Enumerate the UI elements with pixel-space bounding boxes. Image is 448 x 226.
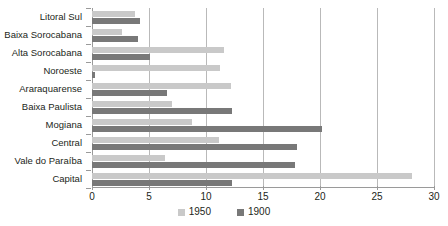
bar-row [92, 134, 434, 152]
bar-1950 [92, 65, 220, 71]
category-label: Alta Sorocabana [0, 44, 86, 62]
plot-area [92, 8, 434, 188]
bar-row [92, 116, 434, 134]
bar-1900 [92, 126, 322, 132]
legend-item-1950[interactable]: 1950 [178, 206, 211, 218]
category-label: Araraquarense [0, 80, 86, 98]
bar-1950 [92, 137, 219, 143]
x-tick-mark [263, 186, 264, 190]
category-axis: Litoral SulBaixa SorocabanaAlta Sorocaba… [0, 8, 86, 188]
category-tick [86, 8, 91, 9]
x-tick-mark [149, 186, 150, 190]
x-tick-mark [320, 186, 321, 190]
x-tick-label: 10 [200, 190, 211, 204]
bar-1950 [92, 173, 412, 179]
bar-1900 [92, 144, 297, 150]
category-label: Litoral Sul [0, 8, 86, 26]
chart-legend: 19501900 [0, 206, 448, 218]
bar-row [92, 62, 434, 80]
bar-chart: Litoral SulBaixa SorocabanaAlta Sorocaba… [0, 0, 448, 226]
x-tick-label: 5 [146, 190, 152, 204]
category-tick [86, 62, 91, 63]
x-tick-label: 0 [89, 190, 95, 204]
legend-label: 1900 [248, 206, 270, 218]
category-label: Vale do Paraíba [0, 152, 86, 170]
category-label: Noroeste [0, 62, 86, 80]
bar-1900 [92, 108, 232, 114]
bar-row [92, 8, 434, 26]
x-tick-label: 30 [428, 190, 439, 204]
x-tick-mark [92, 186, 93, 190]
bar-1900 [92, 90, 167, 96]
gridline-30 [434, 8, 435, 188]
category-tick [86, 134, 91, 135]
bar-row [92, 44, 434, 62]
category-tick [86, 80, 91, 81]
bar-1950 [92, 83, 231, 89]
bar-1950 [92, 155, 165, 161]
bar-row [92, 80, 434, 98]
category-tick [86, 170, 91, 171]
bar-row [92, 152, 434, 170]
bar-1950 [92, 29, 122, 35]
category-tick [86, 44, 91, 45]
bar-1950 [92, 119, 192, 125]
category-label: Baixa Paulista [0, 98, 86, 116]
category-tick [86, 152, 91, 153]
bar-1950 [92, 11, 135, 17]
x-tick-mark [434, 186, 435, 190]
bar-1900 [92, 72, 95, 78]
legend-item-1900[interactable]: 1900 [237, 206, 270, 218]
bar-1900 [92, 18, 140, 24]
bar-row [92, 26, 434, 44]
bar-1950 [92, 101, 172, 107]
x-tick-mark [206, 186, 207, 190]
category-tick [86, 26, 91, 27]
x-tick-label: 15 [257, 190, 268, 204]
legend-swatch-1900 [237, 209, 244, 216]
bar-1900 [92, 180, 232, 186]
x-tick-label: 20 [314, 190, 325, 204]
x-axis-tick-labels: 051015202530 [92, 190, 434, 204]
bar-1900 [92, 162, 295, 168]
category-label: Mogiana [0, 116, 86, 134]
bar-1950 [92, 47, 224, 53]
category-label: Central [0, 134, 86, 152]
category-tick [86, 98, 91, 99]
bar-1900 [92, 54, 150, 60]
x-tick-label: 25 [371, 190, 382, 204]
category-label: Baixa Sorocabana [0, 26, 86, 44]
bar-row [92, 98, 434, 116]
category-label: Capital [0, 170, 86, 188]
category-tick [86, 188, 91, 189]
legend-swatch-1950 [178, 209, 185, 216]
legend-label: 1950 [189, 206, 211, 218]
x-tick-mark [377, 186, 378, 190]
bar-1900 [92, 36, 138, 42]
bar-rows [92, 8, 434, 188]
category-tick [86, 116, 91, 117]
